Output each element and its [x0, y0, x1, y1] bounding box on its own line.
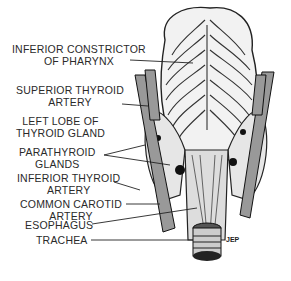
label-line: SUPERIOR THYROID	[16, 84, 124, 96]
label-line: THYROID GLAND	[16, 127, 105, 139]
label-line: ESOPHAGUS	[25, 219, 93, 231]
label-parathyroid-glands: PARATHYROID GLANDS	[19, 146, 96, 170]
label-line: ARTERY	[17, 184, 120, 196]
label-line: INFERIOR CONSTRICTOR	[12, 43, 146, 55]
label-line: TRACHEA	[36, 234, 88, 246]
label-inferior-constrictor: INFERIOR CONSTRICTOR OF PHARYNX	[12, 43, 146, 67]
artist-signature: JEP	[226, 236, 239, 243]
label-trachea: TRACHEA	[36, 234, 88, 246]
label-esophagus: ESOPHAGUS	[25, 219, 93, 231]
label-left-lobe-thyroid: LEFT LOBE OF THYROID GLAND	[16, 115, 105, 139]
label-line: GLANDS	[19, 158, 96, 170]
label-superior-thyroid-artery: SUPERIOR THYROID ARTERY	[16, 84, 124, 108]
label-line: LEFT LOBE OF	[16, 115, 105, 127]
label-line: INFERIOR THYROID	[17, 172, 120, 184]
label-line: ARTERY	[16, 96, 124, 108]
anatomy-figure: INFERIOR CONSTRICTOR OF PHARYNX SUPERIOR…	[0, 0, 291, 281]
label-line: COMMON CAROTID	[20, 198, 122, 210]
label-inferior-thyroid-artery: INFERIOR THYROID ARTERY	[17, 172, 120, 196]
label-line: PARATHYROID	[19, 146, 96, 158]
label-line: OF PHARYNX	[12, 55, 146, 67]
